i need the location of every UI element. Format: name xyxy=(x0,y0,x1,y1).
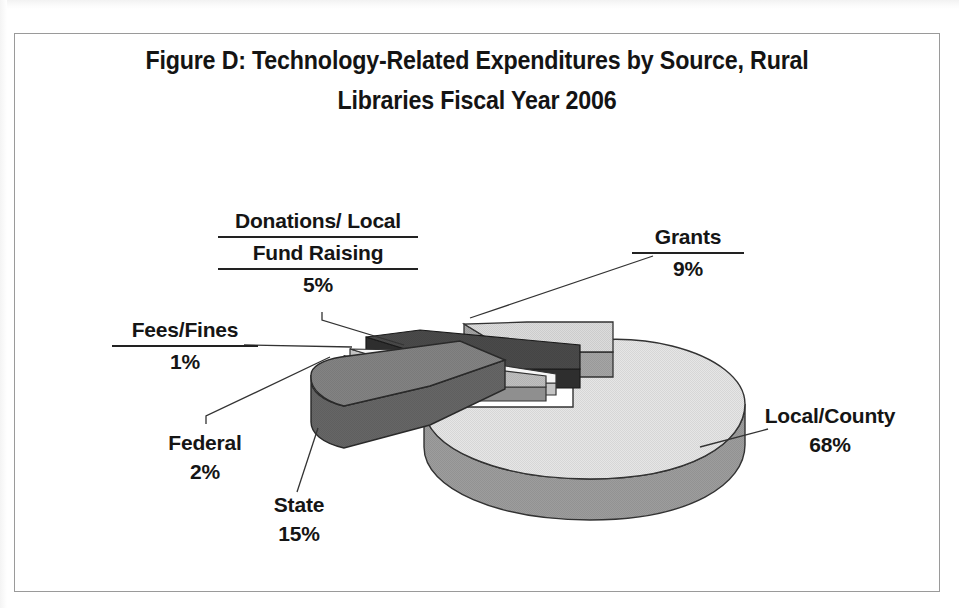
leader-line-fees-fines xyxy=(244,345,352,347)
pie-label-state-line1: State xyxy=(240,490,358,519)
pie-label-donations-percent: 5% xyxy=(218,270,418,299)
pie-label-state: State 15% xyxy=(240,490,358,548)
pie-label-fees-fines-line1: Fees/Fines xyxy=(112,315,258,347)
pie-label-grants-line1: Grants xyxy=(632,222,744,254)
pie-label-local-county: Local/County 68% xyxy=(742,401,918,459)
pie-label-donations-line1: Donations/ Local xyxy=(218,206,418,238)
pie-label-grants-percent: 9% xyxy=(632,254,744,283)
pie-label-local-county-percent: 68% xyxy=(742,430,918,459)
pie-label-federal-percent: 2% xyxy=(140,457,270,486)
pie-label-state-percent: 15% xyxy=(240,519,358,548)
pie-chart-graphic xyxy=(0,0,959,608)
pie-label-donations: Donations/ Local Fund Raising 5% xyxy=(218,206,418,299)
pie-label-local-county-line1: Local/County xyxy=(742,401,918,430)
pie-label-grants: Grants 9% xyxy=(632,222,744,283)
pie-label-donations-line2: Fund Raising xyxy=(218,238,418,270)
pie-label-federal: Federal 2% xyxy=(140,428,270,486)
leader-line-state xyxy=(297,428,318,492)
pie-label-fees-fines-percent: 1% xyxy=(112,347,258,376)
pie-label-federal-line1: Federal xyxy=(140,428,270,457)
leader-line-grants xyxy=(470,256,653,318)
pie-label-fees-fines: Fees/Fines 1% xyxy=(112,315,258,376)
